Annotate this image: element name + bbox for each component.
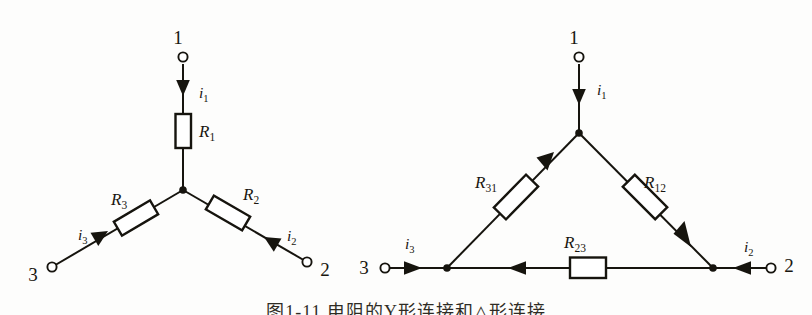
figure-caption-strip: 图1-11 电阻的Y形连接和△形连接 [0, 297, 812, 315]
delta-terminal-label-1: 1 [569, 27, 579, 48]
delta-resistor-label-R23: R23 [563, 233, 586, 254]
delta-node-apex [575, 129, 583, 137]
wye-resistor-R1-body [176, 114, 192, 148]
wye-resistor-label-R2: R2 [242, 185, 259, 206]
delta-current-R12-arrowhead [674, 221, 692, 247]
delta-terminal-3-circle[interactable] [380, 263, 389, 272]
delta-resistor-label-R12: R12 [643, 173, 666, 194]
delta-current-label-i3: i3 [405, 235, 415, 255]
delta-current-label-i2: i2 [744, 238, 754, 258]
delta-current-i3-arrowhead [404, 261, 422, 275]
delta-node-bottom-right [709, 264, 717, 272]
delta-current-R23-arrowhead [508, 261, 526, 275]
wye-diagram: 1 2 3 R1 R2 R3 i1 i2 i3 [28, 27, 330, 285]
wye-current-label-i2: i2 [287, 227, 297, 247]
wye-terminal-label-3: 3 [28, 264, 38, 285]
delta-terminal-label-2: 2 [784, 255, 794, 276]
delta-resistor-label-R31: R31 [474, 173, 497, 194]
delta-current-i2-arrowhead [733, 261, 751, 275]
wye-current-i1-arrowhead [176, 80, 190, 96]
delta-resistor-R31-body [494, 175, 538, 220]
delta-node-bottom-left [443, 264, 451, 272]
wye-current-label-i1: i1 [199, 84, 209, 104]
delta-diagram: 1 2 3 R31 R12 R23 i1 i2 i3 [359, 27, 794, 278]
delta-current-label-i1: i1 [597, 81, 607, 101]
wye-current-label-i3: i3 [78, 226, 88, 246]
wye-terminal-3-circle[interactable] [47, 262, 56, 271]
wye-center-node [179, 186, 187, 194]
figure-root: 1 2 3 R1 R2 R3 i1 i2 i3 [0, 0, 812, 315]
wye-resistor-label-R1: R1 [198, 122, 215, 143]
delta-resistor-R23-body [570, 258, 606, 279]
circuit-diagram-canvas: 1 2 3 R1 R2 R3 i1 i2 i3 [0, 0, 812, 315]
wye-terminal-2-circle[interactable] [302, 257, 311, 266]
figure-caption: 图1-11 电阻的Y形连接和△形连接 [0, 297, 812, 315]
wye-terminal-label-2: 2 [320, 259, 330, 280]
delta-terminal-2-circle[interactable] [766, 263, 775, 272]
wye-current-i2-arrowhead [264, 237, 282, 252]
delta-terminal-label-3: 3 [359, 257, 369, 278]
wye-resistor-label-R3: R3 [110, 190, 127, 211]
delta-current-i1-arrowhead [572, 89, 586, 105]
wye-terminal-1-circle[interactable] [178, 52, 187, 61]
delta-terminal-1-circle[interactable] [574, 52, 583, 61]
wye-terminal-label-1: 1 [173, 27, 183, 48]
